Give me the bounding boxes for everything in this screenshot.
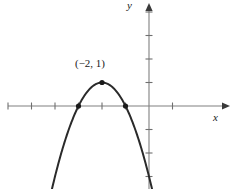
parabola-figure: (−2, 1) y x [0, 0, 233, 189]
x-axis-label: x [213, 112, 218, 123]
left-x-intercept-point [76, 103, 81, 108]
right-x-intercept-point [123, 103, 128, 108]
vertex-point [99, 80, 104, 85]
vertex-annotation-label: (−2, 1) [75, 58, 105, 69]
coordinate-plot [0, 0, 233, 189]
x-axis-arrow-icon [222, 102, 230, 109]
y-axis-label: y [127, 0, 132, 11]
parabola-curve [52, 83, 152, 190]
y-axis-arrow-icon [145, 3, 152, 11]
